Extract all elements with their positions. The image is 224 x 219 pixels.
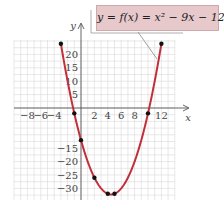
svg-text:15: 15 (65, 62, 78, 73)
svg-text:−20: −20 (57, 156, 78, 167)
svg-text:−15: −15 (57, 143, 78, 154)
tick-labels: −8−6−42468122015105−15−20−25−30xy (20, 20, 191, 194)
svg-text:20: 20 (65, 49, 78, 60)
svg-text:−25: −25 (57, 170, 78, 181)
svg-text:y: y (69, 20, 76, 31)
svg-text:2: 2 (91, 110, 97, 121)
callout-leader (138, 32, 157, 59)
parabola-chart: −8−6−42468122015105−15−20−25−30xy (0, 0, 224, 219)
svg-text:4: 4 (105, 110, 111, 121)
equation-label: y = f(x) = x² − 9x − 12 (96, 5, 219, 31)
svg-text:−4: −4 (47, 110, 62, 121)
svg-text:6: 6 (118, 110, 124, 121)
svg-text:12: 12 (155, 110, 168, 121)
svg-text:5: 5 (72, 89, 78, 100)
svg-text:8: 8 (131, 110, 137, 121)
svg-text:x: x (185, 112, 191, 123)
svg-text:−30: −30 (57, 183, 78, 194)
